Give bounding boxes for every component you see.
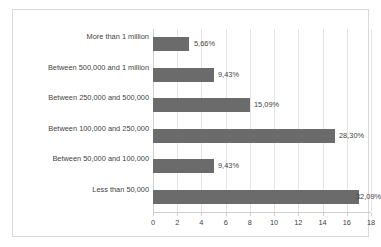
bar-value-label: 5,66% [194,36,215,51]
bar-value-label: 9,43% [218,67,239,82]
tick-label: 12 [288,217,308,229]
category-label: Between 500,000 and 1 million [17,60,149,75]
bar[interactable] [153,37,189,51]
tick-mark [274,213,275,216]
category-label: Between 100,000 and 250,000 [17,121,149,136]
tick-label: 4 [191,217,211,229]
tick-mark [177,213,178,216]
bar-row: 15,09% [153,90,371,121]
plot-area: 5,66% 9,43% 15,09% 28,30% 9,43% 32,09% [153,29,371,212]
tick-mark [371,213,372,216]
tick-label: 16 [337,217,357,229]
tick-mark [347,213,348,216]
chart-container: More than 1 million Between 500,000 and … [12,9,369,237]
tick-mark [201,213,202,216]
tick-mark [250,213,251,216]
tick-label: 8 [240,217,260,229]
tick-label: 6 [216,217,236,229]
tick-mark [298,213,299,216]
bar-row: 5,66% [153,29,371,60]
bar-value-label: 9,43% [218,158,239,173]
tick-label: 14 [313,217,333,229]
gridline [371,29,372,212]
bar[interactable] [153,129,335,143]
bar[interactable] [153,190,359,204]
bar-row: 9,43% [153,60,371,91]
category-label: Less than 50,000 [17,182,149,197]
bar[interactable] [153,98,250,112]
category-label: More than 1 million [17,29,149,44]
bar-row: 32,09% [153,182,371,213]
tick-mark [153,213,154,216]
tick-label: 10 [264,217,284,229]
bar-value-label: 15,09% [254,97,279,112]
tick-mark [323,213,324,216]
tick-mark [226,213,227,216]
bar-value-label: 28,30% [339,128,364,143]
category-label: Between 250,000 and 500,000 [17,90,149,105]
bar-row: 9,43% [153,151,371,182]
category-label: Between 50,000 and 100,000 [17,151,149,166]
bar-row: 28,30% [153,121,371,152]
bar[interactable] [153,68,214,82]
category-axis-labels: More than 1 million Between 500,000 and … [13,29,149,212]
tick-label: 18 [361,217,381,229]
tick-label: 2 [167,217,187,229]
value-axis-ticks: 0 2 4 6 8 10 12 14 16 18 [153,213,371,231]
tick-label: 0 [143,217,163,229]
bar[interactable] [153,159,214,173]
bar-value-label: 32,09% [356,189,381,204]
